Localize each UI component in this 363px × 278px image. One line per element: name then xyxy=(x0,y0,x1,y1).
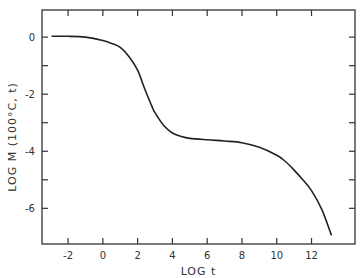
x-axis-title: LOG t xyxy=(181,265,217,278)
y-tick-label: -6 xyxy=(25,203,35,214)
x-tick-label: 6 xyxy=(204,250,210,261)
series-line xyxy=(52,36,332,235)
x-tick-label: 10 xyxy=(270,250,283,261)
chart: -2024681012 0-2-4-6 LOG t LOG M (100°C, … xyxy=(0,0,363,278)
x-tick-label: -2 xyxy=(63,250,73,261)
x-tick-label: 2 xyxy=(134,250,140,261)
y-tick-label: -4 xyxy=(25,146,35,157)
plot-frame xyxy=(42,10,355,244)
y-tick-label: -2 xyxy=(25,89,35,100)
y-ticks: 0-2-4-6 xyxy=(25,32,355,214)
y-axis-title: LOG M (100°C, t) xyxy=(6,82,19,191)
x-tick-label: 0 xyxy=(100,250,106,261)
y-tick-label: 0 xyxy=(29,32,35,43)
x-tick-label: 4 xyxy=(169,250,175,261)
x-tick-label: 12 xyxy=(305,250,318,261)
x-tick-label: 8 xyxy=(239,250,245,261)
x-ticks: -2024681012 xyxy=(63,10,318,261)
